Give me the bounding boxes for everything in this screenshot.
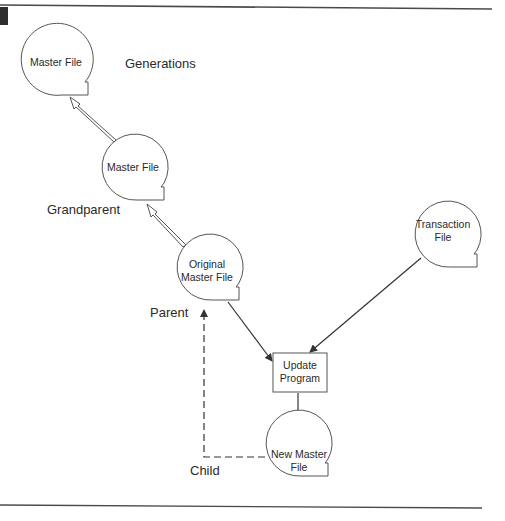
node-update-program: Update Program [273,353,327,392]
node-new-master-file: New Master File [266,410,332,476]
node-label-line2: File [291,461,308,473]
node-label: Master File [30,56,82,68]
node-master-file-grandparent: Master File [102,134,168,200]
hollow-arrow-grandparent-to-top [70,97,116,142]
node-transaction-file: Transaction File [415,201,481,267]
node-label-line1: Transaction [416,218,471,230]
generations-diagram: Master File Generations Master File Gran… [0,0,505,521]
caption-grandparent: Grandparent [47,202,120,217]
top-rule [0,5,492,9]
node-label: Master File [107,161,159,173]
node-label-line1: Original [189,258,225,270]
node-label-line1: Update [283,359,317,371]
node-label-line2: Program [280,372,321,384]
corner-block [0,7,8,25]
node-label-line1: New Master [271,448,328,460]
node-label-line2: Master File [181,271,233,283]
arrow-original-to-update [228,302,272,361]
node-label-line2: File [435,231,452,243]
caption-parent: Parent [150,305,189,320]
arrow-transaction-to-update [310,258,421,352]
dashed-arrow-child-to-parent [204,310,265,457]
caption-generations: Generations [125,56,196,71]
bottom-rule [0,505,482,508]
node-original-master-file: Original Master File [177,234,243,300]
node-master-file-top: Master File [21,23,93,95]
hollow-arrow-parent-to-grandparent [147,204,186,247]
caption-child: Child [190,463,220,478]
